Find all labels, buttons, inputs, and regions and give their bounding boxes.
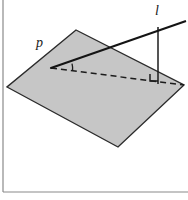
plane-label: p (35, 35, 43, 50)
angle-vertex (50, 67, 52, 69)
line-label: l (155, 3, 159, 18)
geometry-figure: p l (0, 0, 188, 200)
angle-arc (72, 64, 73, 71)
diagram-canvas: p l (0, 0, 188, 200)
